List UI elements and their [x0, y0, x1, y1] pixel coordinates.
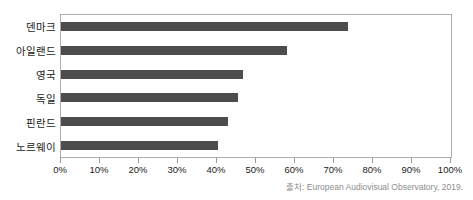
x-axis-tick	[450, 158, 451, 163]
category-label: 노르웨이	[0, 134, 57, 158]
x-axis-tick-label: 50%	[245, 164, 264, 175]
x-axis-tick-label: 70%	[323, 164, 342, 175]
x-axis-tick	[177, 158, 178, 163]
x-axis-tick	[333, 158, 334, 163]
category-label: 독일	[0, 86, 57, 110]
x-axis-tick-label: 10%	[89, 164, 108, 175]
x-axis-tick	[411, 158, 412, 163]
bar-track	[61, 15, 451, 39]
x-axis-tick-label: 90%	[401, 164, 420, 175]
x-axis-tick	[216, 158, 217, 163]
x-axis-tick	[294, 158, 295, 163]
x-axis-labels: 0%10%20%30%40%50%60%70%80%90%100%	[0, 164, 473, 178]
category-label: 덴마크	[0, 14, 57, 38]
bar	[61, 141, 218, 150]
x-axis-tick	[255, 158, 256, 163]
x-axis-tick-label: 80%	[362, 164, 381, 175]
x-axis-tick-label: 100%	[438, 164, 462, 175]
bar	[61, 22, 348, 31]
bar-track	[61, 39, 451, 63]
x-axis-tick-label: 30%	[167, 164, 186, 175]
x-axis-tick	[60, 158, 61, 163]
x-axis-tick	[138, 158, 139, 163]
x-axis-tick	[372, 158, 373, 163]
x-axis-tick-label: 20%	[128, 164, 147, 175]
bar	[61, 93, 238, 102]
bar-track	[61, 86, 451, 110]
bar-track	[61, 133, 451, 157]
category-label: 영국	[0, 62, 57, 86]
bar-track	[61, 110, 451, 134]
category-axis: 덴마크아일랜드영국독일핀란드노르웨이	[0, 14, 57, 158]
source-note: 출처: European Audiovisual Observatory, 20…	[286, 180, 463, 192]
x-axis-tick-label: 40%	[206, 164, 225, 175]
chart-title	[0, 0, 473, 6]
bar	[61, 46, 287, 55]
bars-layer	[61, 15, 451, 157]
x-axis-tick-label: 60%	[284, 164, 303, 175]
x-axis-tick-label: 0%	[53, 164, 67, 175]
bar-track	[61, 62, 451, 86]
category-label: 아일랜드	[0, 38, 57, 62]
x-axis-tick	[99, 158, 100, 163]
bar	[61, 117, 228, 126]
category-label: 핀란드	[0, 110, 57, 134]
bar	[61, 70, 243, 79]
